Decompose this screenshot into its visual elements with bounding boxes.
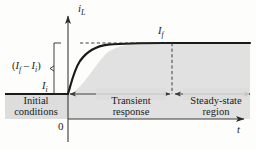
steady-state-region-label: Steady-state region [182,95,250,117]
initial-conditions-label: Initial conditions [4,95,68,117]
x-axis-label: t [237,124,240,135]
plot-svg [0,0,256,150]
final-current-label: If [158,25,164,36]
y-axis-label: iL [78,3,85,15]
delta-close-paren: ) [37,60,41,71]
initial-conditions-line-2: conditions [4,106,68,117]
initial-current-label: Ii [42,80,48,91]
initial-current-subscript: i [46,85,48,94]
delta-current-label: (If – Ii) [12,60,41,71]
transient-response-label: Transient response [96,95,166,117]
origin-label: 0 [58,121,64,133]
initial-conditions-line-1: Initial [4,95,68,106]
delta-bracket [50,43,61,94]
y-axis-label-subscript: L [81,8,85,17]
figure-container: iL If (If – Ii) Ii 0 t Initial condition… [0,0,256,150]
transient-response-line-1: Transient [96,95,166,106]
steady-state-line-1: Steady-state [182,95,250,106]
final-current-subscript: f [162,30,164,39]
steady-state-line-2: region [182,106,250,117]
transient-response-line-2: response [96,106,166,117]
delta-minus-sign: – [21,60,32,71]
